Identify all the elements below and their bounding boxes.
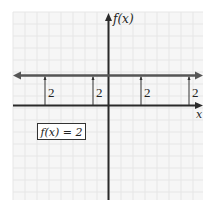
- equation-label: f(x) = 2: [39, 126, 82, 139]
- equation-box: f(x) = 2: [38, 124, 86, 140]
- x-axis-label: x: [196, 108, 203, 121]
- function-graph: 2 2 2 2 f(x) x f(x) = 2: [0, 0, 213, 210]
- y-axis-label: f(x): [112, 12, 134, 26]
- marker-label-2: 2: [96, 85, 103, 100]
- marker-label-3: 2: [144, 85, 151, 100]
- marker-label-4: 2: [192, 85, 199, 100]
- marker-label-1: 2: [48, 85, 55, 100]
